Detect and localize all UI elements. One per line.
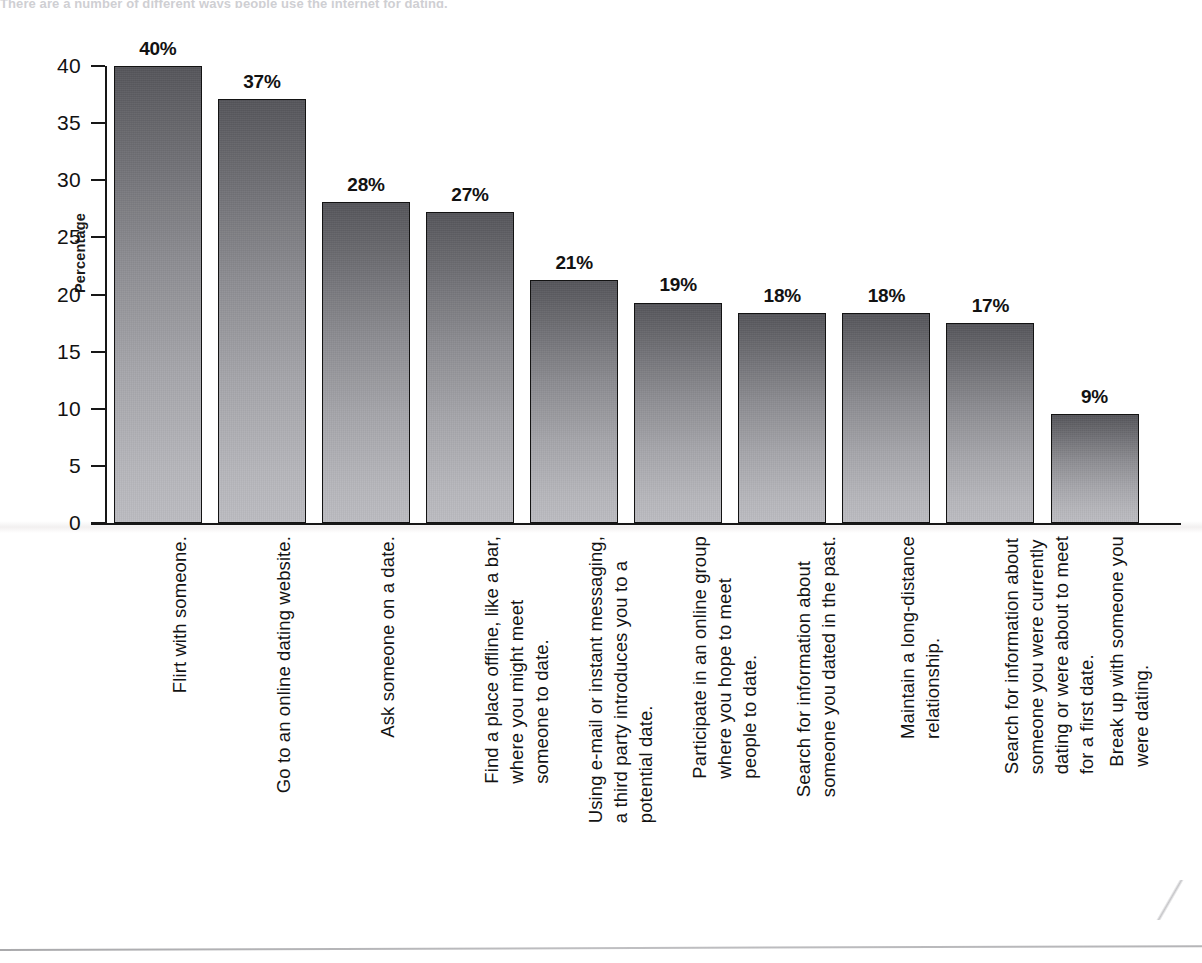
y-axis-tick xyxy=(91,122,105,124)
x-axis-category-line: for a first date. xyxy=(1074,536,1099,774)
bar xyxy=(114,66,202,523)
bar xyxy=(634,303,722,524)
x-axis-category-line: Go to an online dating website. xyxy=(271,536,296,793)
y-axis-tick xyxy=(91,236,105,238)
bar xyxy=(322,202,410,523)
x-axis-category-label: Participate in an online groupwhere you … xyxy=(687,536,762,779)
scan-artifact-mark xyxy=(1150,880,1190,920)
bar-value-label: 18% xyxy=(737,286,827,305)
x-axis-category-label: Flirt with someone. xyxy=(167,536,192,693)
x-axis-category-line: potential date. xyxy=(633,536,658,823)
x-axis-category-line: Search for information about xyxy=(999,536,1024,774)
y-axis-tick xyxy=(91,294,105,296)
bar-value-label: 37% xyxy=(217,72,307,91)
x-axis-category-label: Using e-mail or instant messaging,a thir… xyxy=(583,536,658,823)
x-axis-category-line: Break up with someone you xyxy=(1104,536,1129,767)
page-body-text-cutoff: There are a number of different ways peo… xyxy=(0,0,900,8)
bar-chart: There are a number of different ways peo… xyxy=(0,0,1202,963)
bar xyxy=(1051,414,1139,523)
x-axis-category-line: a third party introduces you to a xyxy=(608,536,633,823)
y-axis-tick xyxy=(91,179,105,181)
y-axis-tick-label: 25 xyxy=(21,226,81,247)
y-axis-tick xyxy=(91,522,105,524)
bar xyxy=(842,313,930,523)
x-axis-category-label: Break up with someone youwere dating. xyxy=(1104,536,1154,767)
bar-value-label: 17% xyxy=(945,296,1035,315)
plot-area xyxy=(105,66,1177,523)
y-axis-tick xyxy=(91,465,105,467)
bar-value-label: 18% xyxy=(841,286,931,305)
bar-value-label: 27% xyxy=(425,185,515,204)
x-axis-category-line: Maintain a long-distance xyxy=(895,536,920,739)
bar-value-label: 21% xyxy=(529,253,619,272)
x-axis-line xyxy=(91,523,1181,525)
bar-value-label: 40% xyxy=(113,39,203,58)
y-axis-tick xyxy=(91,65,105,67)
x-axis-category-line: dating or were about to meet xyxy=(1049,536,1074,774)
bar xyxy=(946,323,1034,523)
x-axis-category-line: Ask someone on a date. xyxy=(375,536,400,738)
bar-value-label: 28% xyxy=(321,175,411,194)
y-axis-tick-label: 5 xyxy=(21,455,81,476)
x-axis-category-line: where you might meet xyxy=(504,536,529,784)
y-axis-tick-label: 20 xyxy=(21,284,81,305)
y-axis-tick-label: 40 xyxy=(21,55,81,76)
x-axis-category-line: where you hope to meet xyxy=(712,536,737,779)
y-axis-tick-label: 30 xyxy=(21,169,81,190)
x-axis-category-line: someone to date. xyxy=(529,536,554,784)
x-axis-category-line: Using e-mail or instant messaging, xyxy=(583,536,608,823)
bar-value-label: 19% xyxy=(633,275,723,294)
bar xyxy=(426,212,514,523)
x-axis-category-line: someone you dated in the past. xyxy=(816,536,841,797)
x-axis-category-label: Search for information aboutsomeone you … xyxy=(999,536,1099,774)
bar-value-label: 9% xyxy=(1050,387,1140,406)
y-axis-tick xyxy=(91,351,105,353)
x-axis-category-line: Participate in an online group xyxy=(687,536,712,779)
x-axis-category-label: Find a place offline, like a bar,where y… xyxy=(479,536,554,784)
x-axis-category-line: Flirt with someone. xyxy=(167,536,192,693)
y-axis-tick xyxy=(91,408,105,410)
x-axis-category-line: Search for information about xyxy=(791,536,816,797)
x-axis-category-line: relationship. xyxy=(920,536,945,739)
y-axis-tick-label: 10 xyxy=(21,398,81,419)
x-axis-category-line: were dating. xyxy=(1129,536,1154,767)
x-axis-category-line: people to date. xyxy=(737,536,762,779)
x-axis-category-label: Search for information aboutsomeone you … xyxy=(791,536,841,797)
x-axis-category-label: Go to an online dating website. xyxy=(271,536,296,793)
bar xyxy=(218,99,306,523)
x-axis-category-line: Find a place offline, like a bar, xyxy=(479,536,504,784)
x-axis-category-label: Ask someone on a date. xyxy=(375,536,400,738)
y-axis-tick-label: 35 xyxy=(21,112,81,133)
bar xyxy=(738,313,826,523)
page-bottom-rule xyxy=(0,945,1202,951)
x-axis-category-label: Maintain a long-distancerelationship. xyxy=(895,536,945,739)
x-axis-category-line: someone you were currently xyxy=(1024,536,1049,774)
y-axis-tick-label: 15 xyxy=(21,341,81,362)
y-axis-tick-label: 0 xyxy=(21,512,81,533)
bar xyxy=(530,280,618,523)
